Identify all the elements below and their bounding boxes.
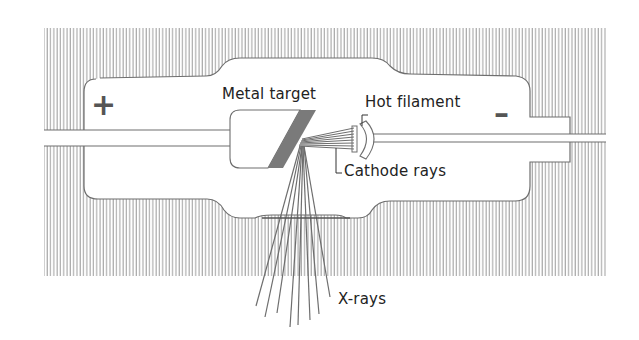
label-hot-filament: Hot filament bbox=[365, 93, 461, 111]
cathode-rod bbox=[370, 134, 606, 142]
label-metal-target: Metal target bbox=[222, 85, 316, 103]
anode-plus-sign: + bbox=[91, 90, 116, 120]
cathode-cup bbox=[360, 121, 374, 159]
hot-filament bbox=[352, 126, 357, 152]
anode-rod bbox=[44, 130, 230, 146]
cathode-minus-sign: – bbox=[494, 98, 509, 128]
glass-envelope bbox=[44, 28, 606, 276]
x-ray-tube-diagram bbox=[0, 0, 639, 340]
cathode-rays bbox=[299, 128, 354, 149]
label-x-rays: X-rays bbox=[338, 290, 386, 308]
label-cathode-rays: Cathode rays bbox=[344, 162, 446, 180]
